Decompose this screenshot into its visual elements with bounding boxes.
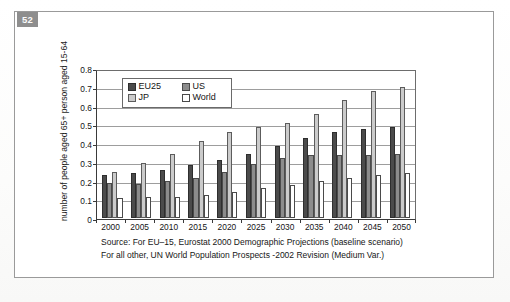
bar-world-2050[interactable] (405, 173, 410, 218)
y-tick-label: 0.1 (80, 197, 92, 205)
y-tick-label: 0.4 (80, 141, 92, 149)
y-tick-mark (93, 70, 96, 71)
x-tick-label: 2000 (96, 222, 125, 232)
bar-world-2005[interactable] (146, 197, 151, 218)
x-tick-label: 2045 (358, 222, 387, 232)
x-tick-label: 2015 (183, 222, 212, 232)
legend-label-world: World (193, 92, 216, 103)
source-line-1: Source: For EU–15, Eurostat 2000 Demogra… (101, 236, 473, 249)
bar-group (242, 72, 271, 218)
bar-world-2025[interactable] (261, 188, 266, 218)
y-tick-label: 0.8 (80, 66, 92, 74)
legend-swatch-eu25-icon (128, 83, 136, 91)
bar-world-2030[interactable] (290, 185, 295, 218)
chart-legend: EU25 US JP World (122, 78, 232, 108)
x-tick-label: 2010 (154, 222, 183, 232)
legend-item-jp[interactable]: JP (128, 92, 182, 103)
bar-group (357, 72, 386, 218)
bar-world-2000[interactable] (117, 198, 122, 218)
x-tick-label: 2035 (300, 222, 329, 232)
legend-label-us: US (193, 81, 206, 92)
legend-label-eu25: EU25 (139, 81, 162, 92)
y-tick-label: 0.3 (80, 160, 92, 168)
bar-group (270, 72, 299, 218)
legend-swatch-world-icon (182, 94, 190, 102)
bar-world-2010[interactable] (175, 197, 180, 218)
y-tick-mark (93, 183, 96, 184)
y-tick-mark (93, 108, 96, 109)
y-tick-label: 0.6 (80, 103, 92, 111)
x-tick-label: 2020 (212, 222, 241, 232)
x-tick-label: 2005 (125, 222, 154, 232)
legend-label-jp: JP (139, 92, 150, 103)
bar-world-2015[interactable] (204, 195, 209, 218)
bar-group (328, 72, 357, 218)
y-tick-mark (93, 164, 96, 165)
legend-swatch-jp-icon (128, 94, 136, 102)
legend-item-us[interactable]: US (182, 81, 205, 92)
legend-item-eu25[interactable]: EU25 (128, 81, 182, 92)
source-note: Source: For EU–15, Eurostat 2000 Demogra… (101, 236, 473, 262)
x-tick-label: 2030 (271, 222, 300, 232)
source-line-2: For all other, UN World Population Prosp… (101, 249, 473, 262)
y-axis-title: number of people aged 65+ person aged 15… (59, 31, 69, 231)
legend-swatch-us-icon (182, 83, 190, 91)
bar-world-2040[interactable] (347, 178, 352, 218)
figure-page: 52 number of people aged 65+ person aged… (0, 0, 510, 302)
y-tick-mark (93, 89, 96, 90)
bar-group (299, 72, 328, 218)
y-tick-label: 0.5 (80, 122, 92, 130)
y-tick-label: 0.2 (80, 178, 92, 186)
bar-world-2035[interactable] (319, 181, 324, 218)
legend-row-2: JP World (128, 92, 227, 103)
x-axis-labels: 2000200520102015202020252030203520402045… (96, 222, 416, 232)
bar-group (385, 72, 414, 218)
bar-world-2020[interactable] (232, 192, 237, 218)
x-tick-label: 2025 (241, 222, 270, 232)
page-number-badge: 52 (17, 12, 38, 27)
legend-row-1: EU25 US (128, 81, 227, 92)
x-tick-label: 2050 (387, 222, 416, 232)
legend-item-world[interactable]: World (182, 92, 216, 103)
bar-world-2045[interactable] (376, 175, 381, 218)
x-tick-label: 2040 (329, 222, 358, 232)
y-tick-mark (93, 145, 96, 146)
y-tick-label: 0 (87, 216, 92, 224)
y-tick-mark (93, 201, 96, 202)
y-tick-label: 0.7 (80, 85, 92, 93)
y-tick-mark (93, 126, 96, 127)
